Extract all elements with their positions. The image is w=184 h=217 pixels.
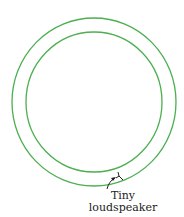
loudspeaker-icon: [116, 172, 123, 180]
outer-ring: [12, 18, 176, 186]
label-line-2: loudspeaker: [78, 202, 168, 214]
loudspeaker-label: Tiny loudspeaker: [78, 190, 168, 214]
inner-ring: [26, 32, 162, 172]
ring-diagram: [0, 0, 184, 217]
